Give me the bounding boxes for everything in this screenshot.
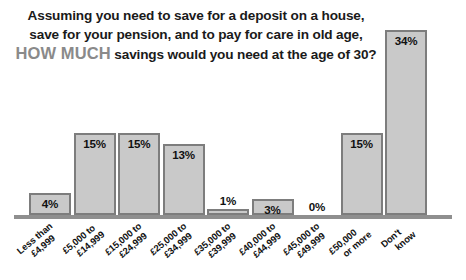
plot-area: 4%15%15%13%1%3%0%15%34%	[0, 0, 466, 219]
bar-value-label: 34%	[379, 34, 433, 47]
bar-column[interactable]: 0%	[296, 0, 338, 219]
bar-column[interactable]: 1%	[207, 0, 249, 219]
bar-column[interactable]: 13%	[163, 0, 205, 219]
bar[interactable]	[385, 30, 427, 215]
bar-column[interactable]: 15%	[341, 0, 383, 219]
x-axis-tick-labels: Less than£4,999£5,000 to£14,999£15,000 t…	[0, 219, 466, 280]
bar-column[interactable]: 15%	[74, 0, 116, 219]
bar-column[interactable]: 15%	[118, 0, 160, 219]
bar-column[interactable]: 3%	[252, 0, 294, 219]
bar-column[interactable]: 34%	[385, 0, 427, 219]
bar-chart: Assuming you need to save for a deposit …	[0, 0, 466, 280]
bar-value-label: 13%	[157, 148, 211, 161]
bar-column[interactable]: 4%	[29, 0, 71, 219]
bar-value-label: 15%	[335, 137, 389, 150]
